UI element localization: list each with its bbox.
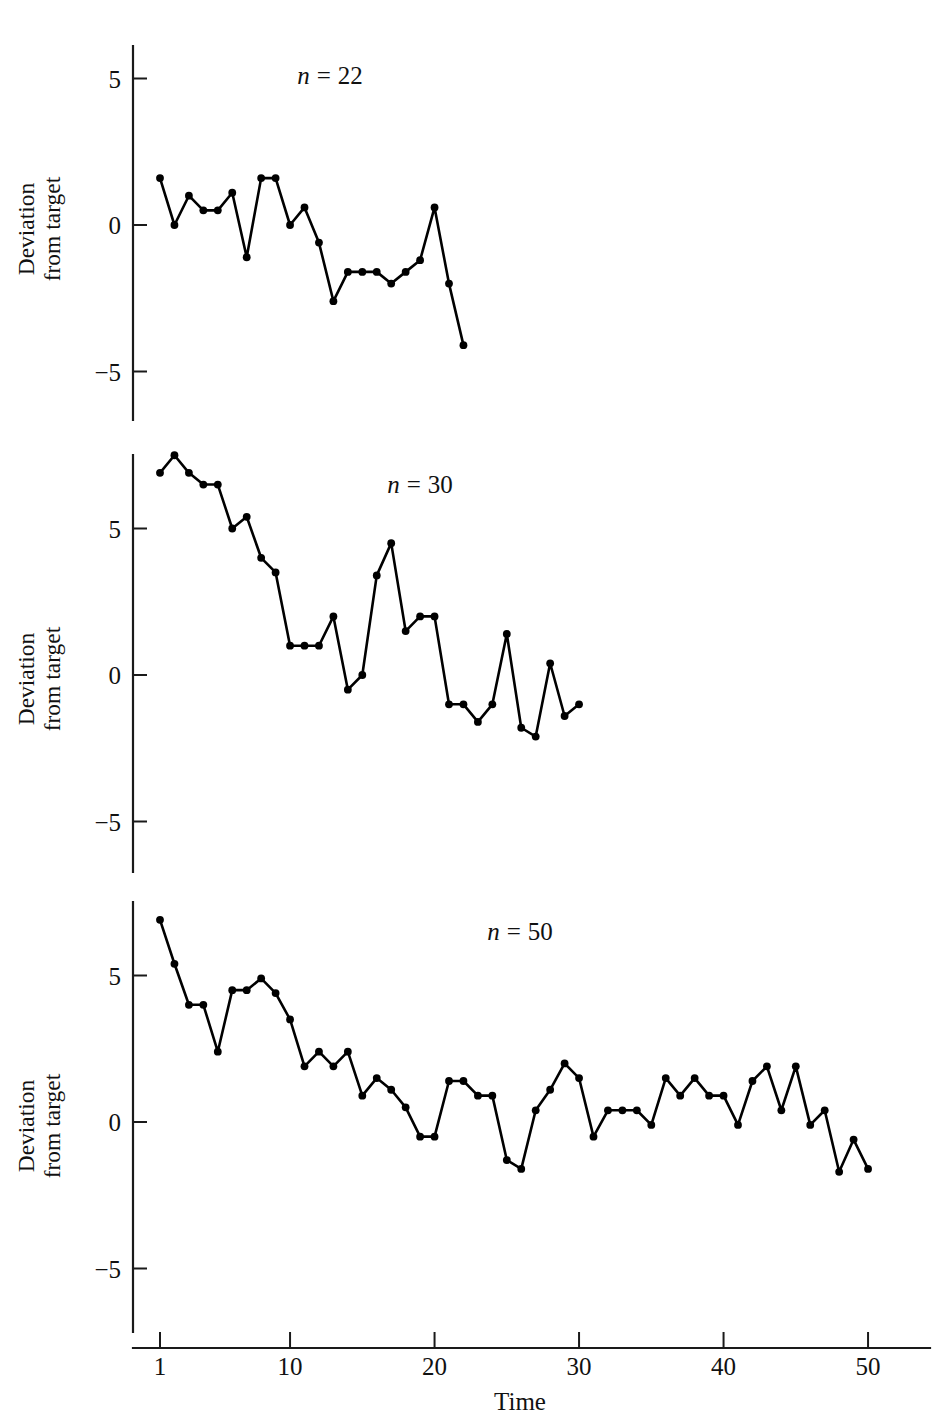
shared-x-axis: 11020304050Time	[133, 1332, 930, 1415]
y-axis-tick-label: 0	[109, 1109, 122, 1136]
data-point	[199, 481, 207, 489]
data-point	[185, 469, 193, 477]
data-point	[647, 1121, 655, 1129]
y-axis-title: Deviationfrom target	[13, 176, 65, 281]
data-point	[272, 174, 280, 182]
annotation-variable: n	[487, 918, 500, 945]
data-point	[546, 659, 554, 667]
data-point	[806, 1121, 814, 1129]
figure-container: 50−5Deviationfrom targetn=2250−5Deviatio…	[0, 0, 936, 1426]
data-point	[561, 1060, 569, 1068]
data-point	[214, 206, 222, 214]
data-point	[214, 481, 222, 489]
y-axis-title-line-1: Deviation	[13, 182, 39, 275]
data-point	[156, 174, 164, 182]
panel-annotation-n-50: n=50	[487, 918, 553, 945]
data-point	[561, 712, 569, 720]
data-point	[315, 239, 323, 247]
data-point	[373, 1074, 381, 1082]
data-point	[185, 1001, 193, 1009]
data-point	[402, 1103, 410, 1111]
data-point	[358, 1092, 366, 1100]
data-point	[431, 1133, 439, 1141]
data-point	[474, 1092, 482, 1100]
data-point	[344, 686, 352, 694]
data-point	[330, 297, 338, 305]
chart-panel-22: 50−5Deviationfrom targetn=22	[13, 46, 467, 420]
data-point	[517, 1165, 525, 1173]
data-point	[503, 1156, 511, 1164]
data-point	[272, 989, 280, 997]
data-point	[286, 221, 294, 229]
panel-group: 50−5Deviationfrom targetn=2250−5Deviatio…	[13, 46, 872, 1332]
data-point	[330, 613, 338, 621]
data-point	[488, 700, 496, 708]
data-point	[460, 1077, 468, 1085]
data-point	[156, 469, 164, 477]
data-point	[546, 1086, 554, 1094]
data-point	[864, 1165, 872, 1173]
y-axis-title-line-2: from target	[39, 626, 65, 731]
data-point	[445, 700, 453, 708]
y-axis-tick-label: 5	[109, 516, 122, 543]
data-point	[777, 1106, 785, 1114]
data-point	[445, 280, 453, 288]
annotation-variable: n	[297, 62, 310, 89]
data-point	[720, 1092, 728, 1100]
data-point	[272, 569, 280, 577]
data-point	[315, 1048, 323, 1056]
data-point	[171, 221, 179, 229]
data-point	[387, 539, 395, 547]
annotation-value: 30	[428, 471, 453, 498]
data-point	[301, 1062, 309, 1070]
y-axis-title: Deviationfrom target	[13, 1073, 65, 1178]
data-point	[416, 1133, 424, 1141]
y-axis-tick-label: 0	[109, 662, 122, 689]
data-point	[257, 554, 265, 562]
annotation-equals: =	[317, 62, 331, 89]
data-point	[214, 1048, 222, 1056]
data-point	[185, 192, 193, 200]
panel-annotation-n-22: n=22	[297, 62, 363, 89]
data-point	[575, 1074, 583, 1082]
y-axis-title-line-1: Deviation	[13, 1079, 39, 1172]
data-point	[749, 1077, 757, 1085]
data-point	[243, 253, 251, 261]
data-point	[835, 1168, 843, 1176]
x-axis-tick-label: 40	[711, 1353, 736, 1380]
data-point	[691, 1074, 699, 1082]
data-point	[488, 1092, 496, 1100]
data-point	[590, 1133, 598, 1141]
data-point	[387, 1086, 395, 1094]
data-point	[373, 571, 381, 579]
data-point	[402, 627, 410, 635]
data-point	[821, 1106, 829, 1114]
data-point	[171, 451, 179, 459]
annotation-value: 22	[338, 62, 363, 89]
annotation-variable: n	[387, 471, 400, 498]
data-point	[792, 1062, 800, 1070]
data-point	[171, 960, 179, 968]
panel-annotation-n-30: n=30	[387, 471, 453, 498]
data-point	[734, 1121, 742, 1129]
y-axis-tick-label: 5	[109, 963, 122, 990]
data-point	[228, 525, 236, 533]
data-point	[402, 268, 410, 276]
y-axis-tick-label: 0	[109, 212, 122, 239]
y-axis-title-line-1: Deviation	[13, 632, 39, 725]
data-point	[763, 1062, 771, 1070]
y-axis-tick-label: −5	[94, 809, 121, 836]
y-axis-title-line-2: from target	[39, 1073, 65, 1178]
y-axis-title-line-2: from target	[39, 176, 65, 281]
data-point	[243, 986, 251, 994]
data-point	[373, 268, 381, 276]
x-axis-tick-label: 10	[278, 1353, 303, 1380]
data-point	[228, 189, 236, 197]
x-axis-tick-label: 20	[422, 1353, 447, 1380]
data-point	[532, 733, 540, 741]
data-point	[474, 718, 482, 726]
data-point	[431, 204, 439, 212]
data-point	[532, 1106, 540, 1114]
x-axis-title: Time	[494, 1388, 546, 1415]
data-point	[445, 1077, 453, 1085]
